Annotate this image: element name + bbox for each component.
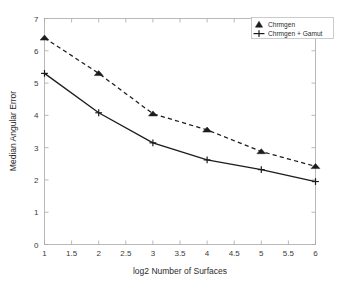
series-0 bbox=[40, 35, 320, 169]
y-tick-label: 4 bbox=[34, 111, 39, 120]
data-point-triangle bbox=[257, 149, 266, 154]
y-tick-label: 5 bbox=[34, 79, 39, 88]
data-point-triangle bbox=[311, 164, 320, 169]
x-tick-label: 3 bbox=[151, 249, 156, 258]
x-tick-label: 5.5 bbox=[283, 249, 295, 258]
x-axis-ticks: 11.522.533.544.555.56 bbox=[42, 19, 318, 258]
series-1 bbox=[41, 70, 319, 185]
legend-label-0: Chrmgen bbox=[268, 21, 295, 29]
y-axis-title: Median Angular Error bbox=[8, 91, 18, 171]
y-tick-label: 6 bbox=[34, 47, 39, 56]
y-tick-label: 2 bbox=[34, 176, 39, 185]
x-tick-label: 4.5 bbox=[229, 249, 241, 258]
x-tick-label: 1.5 bbox=[66, 249, 78, 258]
chart-figure: 11.522.533.544.555.56 01234567 log2 Numb… bbox=[0, 0, 345, 284]
x-axis-title: log2 Number of Surfaces bbox=[133, 266, 227, 276]
x-tick-label: 3.5 bbox=[174, 249, 186, 258]
x-tick-label: 6 bbox=[313, 249, 318, 258]
x-tick-label: 5 bbox=[259, 249, 264, 258]
y-tick-label: 7 bbox=[34, 15, 39, 24]
y-tick-label: 1 bbox=[34, 208, 39, 217]
x-tick-label: 4 bbox=[205, 249, 210, 258]
y-tick-label: 0 bbox=[34, 241, 39, 250]
x-tick-label: 1 bbox=[42, 249, 47, 258]
chart-canvas: 11.522.533.544.555.56 01234567 log2 Numb… bbox=[0, 0, 345, 284]
y-axis-ticks: 01234567 bbox=[34, 15, 315, 250]
legend-label-1: Chrmgen + Gamut bbox=[268, 30, 323, 38]
y-tick-label: 3 bbox=[34, 144, 39, 153]
x-tick-label: 2.5 bbox=[120, 249, 132, 258]
series-layer bbox=[40, 35, 320, 185]
plot-frame bbox=[45, 19, 316, 245]
chart-legend: Chrmgen Chrmgen + Gamut bbox=[252, 18, 334, 39]
data-point-triangle bbox=[40, 35, 49, 40]
series-line-1 bbox=[45, 73, 316, 181]
x-tick-label: 2 bbox=[96, 249, 101, 258]
